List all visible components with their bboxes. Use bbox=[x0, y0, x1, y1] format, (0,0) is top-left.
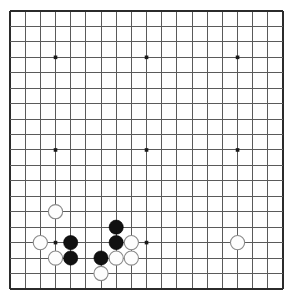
white-stone[interactable] bbox=[230, 236, 244, 250]
black-stone[interactable] bbox=[109, 236, 123, 250]
star-point bbox=[236, 148, 240, 152]
black-stone[interactable] bbox=[64, 236, 78, 250]
black-stone[interactable] bbox=[109, 220, 123, 234]
black-stone[interactable] bbox=[94, 251, 108, 265]
white-stone[interactable] bbox=[109, 251, 123, 265]
go-board-svg[interactable] bbox=[0, 0, 291, 307]
white-stone[interactable] bbox=[48, 251, 62, 265]
star-point bbox=[54, 56, 58, 60]
star-point bbox=[54, 241, 58, 245]
white-stone[interactable] bbox=[33, 236, 47, 250]
star-point bbox=[54, 148, 58, 152]
white-stone[interactable] bbox=[94, 266, 108, 280]
star-point bbox=[236, 56, 240, 60]
star-point bbox=[145, 148, 149, 152]
go-board-container bbox=[0, 0, 291, 307]
white-stone[interactable] bbox=[124, 236, 138, 250]
white-stone[interactable] bbox=[124, 251, 138, 265]
white-stone[interactable] bbox=[48, 205, 62, 219]
black-stone[interactable] bbox=[64, 251, 78, 265]
star-point bbox=[145, 241, 149, 245]
star-point bbox=[145, 56, 149, 60]
board-background bbox=[0, 0, 291, 307]
